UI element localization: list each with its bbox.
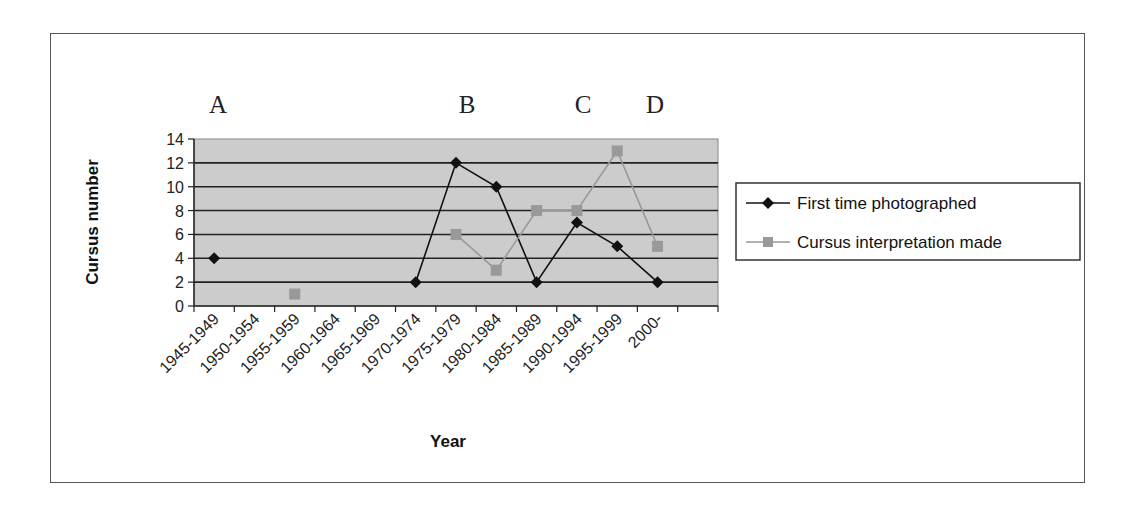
square-marker-icon bbox=[763, 237, 773, 247]
y-tick-label: 2 bbox=[175, 274, 184, 291]
square-marker-icon bbox=[451, 229, 462, 240]
y-tick-label: 14 bbox=[166, 131, 184, 148]
y-tick-label: 6 bbox=[175, 226, 184, 243]
y-axis-title: Cursus number bbox=[83, 159, 102, 285]
annotations: ABCD bbox=[209, 91, 664, 118]
y-tick-label: 4 bbox=[175, 250, 184, 267]
y-tick-label: 0 bbox=[175, 298, 184, 315]
x-axis-title: Year bbox=[430, 432, 466, 451]
square-marker-icon bbox=[531, 205, 542, 216]
square-marker-icon bbox=[571, 205, 582, 216]
square-marker-icon bbox=[491, 265, 502, 276]
x-tick-label: 2000- bbox=[625, 310, 666, 351]
y-tick-label: 10 bbox=[166, 179, 184, 196]
legend: First time photographed Cursus interpret… bbox=[736, 183, 1080, 260]
x-axis: 1945-19491950-19541955-19591960-19641965… bbox=[156, 306, 718, 376]
square-marker-icon bbox=[652, 241, 663, 252]
annotation-label-b: B bbox=[459, 91, 476, 118]
annotation-label-a: A bbox=[209, 91, 227, 118]
square-marker-icon bbox=[612, 145, 623, 156]
line-chart: 02468101214 1945-19491950-19541955-19591… bbox=[0, 0, 1129, 515]
annotation-label-d: D bbox=[646, 91, 664, 118]
y-axis: 02468101214 bbox=[166, 131, 194, 315]
legend-label: First time photographed bbox=[797, 194, 977, 213]
square-marker-icon bbox=[289, 289, 300, 300]
annotation-label-c: C bbox=[575, 91, 592, 118]
y-tick-label: 12 bbox=[166, 155, 184, 172]
y-tick-label: 8 bbox=[175, 203, 184, 220]
legend-label: Cursus interpretation made bbox=[797, 233, 1002, 252]
